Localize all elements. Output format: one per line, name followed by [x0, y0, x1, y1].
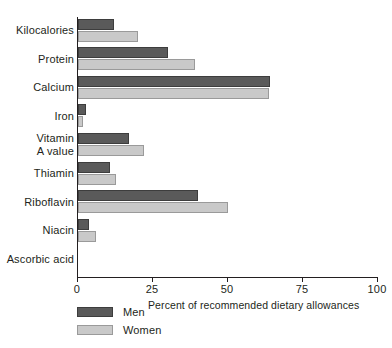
- legend-swatch-men: [77, 307, 113, 317]
- bar-men: [78, 133, 129, 144]
- category-label: Ascorbic acid: [7, 253, 74, 266]
- legend-label-men: Men: [123, 306, 145, 318]
- x-axis-tick-label: 25: [146, 283, 159, 295]
- category-label: Kilocalories: [16, 24, 74, 37]
- legend: Men Women: [77, 303, 161, 339]
- bar-women: [78, 116, 83, 127]
- bar-men: [78, 190, 198, 201]
- legend-item-women: Women: [77, 321, 161, 339]
- category-label: Calcium: [33, 81, 74, 94]
- category-label: Vitamin A value: [36, 132, 74, 157]
- x-axis-tick: [302, 277, 303, 282]
- bar-men: [78, 219, 89, 230]
- bar-women: [78, 174, 116, 185]
- bar-chart: 0255075100 KilocaloriesProteinCalciumIro…: [0, 0, 392, 348]
- legend-swatch-women: [77, 325, 113, 335]
- x-axis-title: Percent of recommended dietary allowance…: [148, 299, 359, 311]
- x-axis-tick-label: 0: [74, 283, 80, 295]
- bar-women: [78, 31, 138, 42]
- legend-item-men: Men: [77, 303, 161, 321]
- category-label: Protein: [38, 52, 74, 65]
- bar-men: [78, 47, 168, 58]
- x-axis-tick: [227, 277, 228, 282]
- x-axis-tick: [377, 277, 378, 282]
- bar-men: [78, 76, 270, 87]
- bar-women: [78, 202, 228, 213]
- category-label: Thiamin: [34, 167, 74, 180]
- x-axis-tick-label: 50: [221, 283, 234, 295]
- bar-men: [78, 19, 114, 30]
- x-axis-tick-label: 75: [296, 283, 309, 295]
- bar-women: [78, 231, 96, 242]
- x-axis-tick-label: 100: [368, 283, 387, 295]
- x-axis-tick: [152, 277, 153, 282]
- legend-label-women: Women: [123, 324, 161, 336]
- category-label: Riboflavin: [24, 195, 74, 208]
- bar-men: [78, 104, 86, 115]
- bar-women: [78, 145, 144, 156]
- bar-women: [78, 59, 195, 70]
- category-label: Niacin: [43, 224, 74, 237]
- bar-women: [78, 88, 269, 99]
- category-label: Iron: [54, 110, 74, 123]
- x-axis-tick: [77, 277, 78, 282]
- bar-men: [78, 162, 110, 173]
